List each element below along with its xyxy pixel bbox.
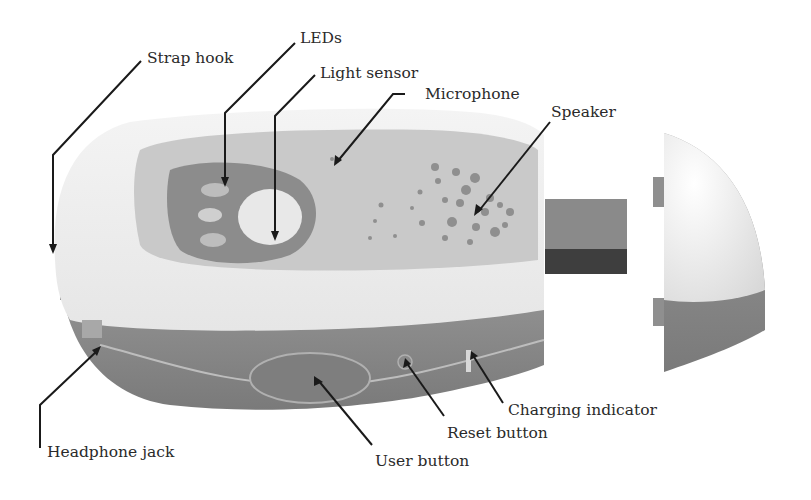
label-user-button: User button — [375, 454, 469, 470]
label-leds: LEDs — [300, 31, 342, 47]
user-button-shape — [250, 353, 370, 403]
label-speaker: Speaker — [551, 105, 616, 121]
charging-indicator-shape — [466, 350, 471, 372]
label-microphone: Microphone — [425, 87, 520, 103]
label-strap-hook: Strap hook — [147, 51, 233, 67]
label-reset-button: Reset button — [447, 426, 548, 442]
detached-cap — [653, 133, 765, 372]
label-charging-indicator: Charging indicator — [508, 403, 657, 419]
usb-connector — [545, 199, 627, 274]
label-headphone-jack: Headphone jack — [47, 445, 174, 461]
label-light-sensor: Light sensor — [320, 66, 418, 82]
light-sensor-dome — [238, 189, 302, 245]
